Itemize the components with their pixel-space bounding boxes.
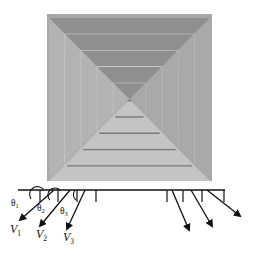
louvre-right-face	[178, 34, 194, 164]
louvre-right-face	[194, 18, 210, 181]
louvre-left-face	[81, 51, 97, 149]
theta-2-label: θ2	[37, 203, 45, 214]
jet-schematic: θ1 θ2 θ3 V1 V2 V3	[10, 187, 240, 246]
theta-1-label: θ1	[11, 198, 19, 209]
right-jet-1-arrow	[172, 190, 189, 230]
louvre-bottom-face	[81, 132, 178, 148]
louvre-left-face	[49, 18, 65, 181]
theta-1-arc	[30, 187, 44, 199]
louvre-top-face	[65, 34, 194, 50]
louvre-left-face	[65, 34, 81, 164]
theta-3-label: θ3	[60, 206, 68, 217]
v-3-label: V3	[63, 230, 74, 246]
v-2-label: V2	[36, 227, 47, 243]
louvre-bottom-face	[65, 148, 194, 164]
theta-3-arc	[73, 190, 76, 200]
louvre-right-face	[162, 51, 178, 149]
louvre-bottom-face	[49, 165, 210, 181]
louvre-top-face	[81, 51, 178, 67]
louvre-top-face	[49, 18, 210, 34]
jet-3-arrow	[67, 190, 85, 229]
diffuser-face	[47, 14, 212, 181]
diffuser-diagram: θ1 θ2 θ3 V1 V2 V3	[0, 0, 260, 257]
left-jets	[20, 187, 96, 229]
right-jets	[167, 190, 240, 230]
v-1-label: V1	[10, 222, 21, 238]
